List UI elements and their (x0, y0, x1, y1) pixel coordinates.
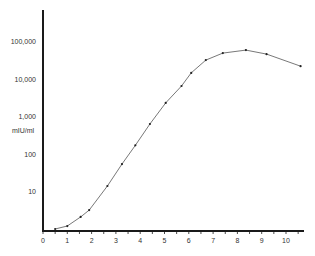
data-point (54, 228, 56, 230)
x-tick-label: 9 (260, 237, 264, 244)
data-point (165, 102, 167, 104)
x-tick-label: 5 (163, 237, 167, 244)
data-point (106, 185, 108, 187)
x-tick-label: 0 (41, 237, 45, 244)
data-point-markers (54, 49, 302, 230)
x-tick-label: 8 (235, 237, 239, 244)
hcg-line-chart: 101001,00010,000100,000 mIU/ml 012345678… (0, 0, 315, 256)
y-tick-label: 100,000 (11, 38, 36, 45)
x-axis-ticks: 012345678910 (41, 231, 298, 244)
data-point (245, 49, 247, 51)
data-point (134, 144, 136, 146)
x-tick-label: 6 (187, 237, 191, 244)
data-point (222, 52, 224, 54)
y-tick-label: 10 (28, 188, 36, 195)
data-point (121, 163, 123, 165)
x-tick-label: 2 (90, 237, 94, 244)
x-tick-label: 10 (282, 237, 290, 244)
y-tick-label: 10,000 (15, 76, 37, 83)
y-tick-label: 100 (24, 151, 36, 158)
data-point (265, 53, 267, 55)
x-tick-label: 1 (65, 237, 69, 244)
y-axis-label: mIU/ml (12, 127, 35, 134)
data-point (88, 209, 90, 211)
data-point (180, 85, 182, 87)
x-tick-label: 7 (211, 237, 215, 244)
x-tick-label: 3 (114, 237, 118, 244)
data-point (149, 123, 151, 125)
data-point (299, 65, 301, 67)
data-point (66, 225, 68, 227)
data-point (190, 72, 192, 74)
data-series-line (55, 50, 301, 229)
data-point (80, 216, 82, 218)
y-tick-label: 1,000 (18, 113, 36, 120)
data-point (205, 59, 207, 61)
y-axis-tick-labels: 101001,00010,000100,000 (11, 38, 36, 195)
x-tick-label: 4 (138, 237, 142, 244)
